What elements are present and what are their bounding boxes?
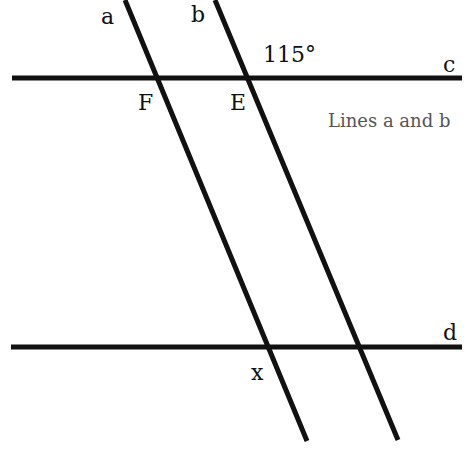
line-d-label: d: [443, 322, 457, 344]
point-f-label: F: [138, 92, 153, 114]
caption-text: Lines a and b: [328, 112, 450, 130]
line-b-label: b: [191, 4, 205, 26]
unknown-angle-label: x: [251, 362, 263, 384]
line-c-label: c: [443, 54, 455, 76]
line-a-label: a: [101, 6, 114, 28]
point-e-label: E: [230, 92, 246, 114]
diagram-canvas: [0, 0, 470, 454]
angle-label: 115°: [263, 44, 316, 66]
